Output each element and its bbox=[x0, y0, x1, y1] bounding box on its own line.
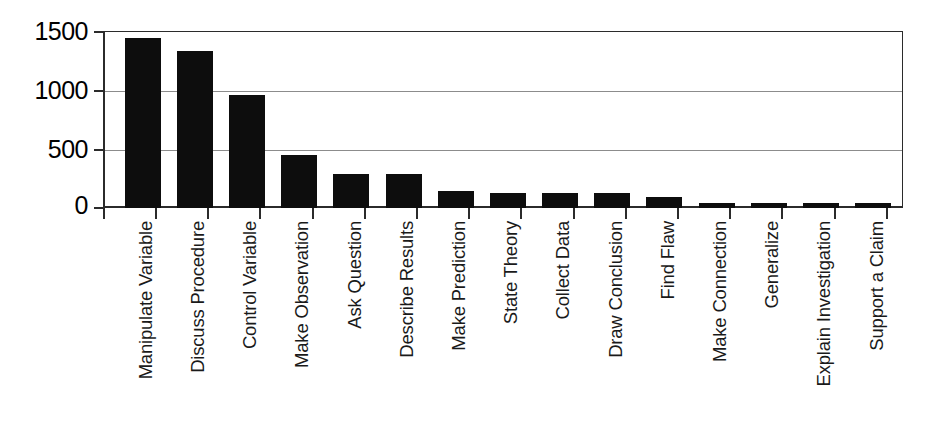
x-label-draw-conclusion: Draw Conclusion bbox=[607, 221, 626, 358]
x-tick-mark-1 bbox=[155, 208, 157, 219]
x-tick-marks bbox=[103, 208, 903, 219]
x-tick-mark-14 bbox=[834, 208, 836, 219]
x-label-control-variable: Control Variable bbox=[241, 221, 260, 349]
y-tick-label-500: 500 bbox=[48, 137, 88, 162]
x-tick-mark-10 bbox=[625, 208, 627, 219]
x-tick-mark-12 bbox=[729, 208, 731, 219]
bar-chart: 1500 1000 500 0 bbox=[0, 0, 947, 435]
x-tick-mark-6 bbox=[416, 208, 418, 219]
x-tick-mark-15 bbox=[886, 208, 888, 219]
x-label-discuss-procedure: Discuss Procedure bbox=[189, 221, 208, 373]
x-tick-mark-3 bbox=[259, 208, 261, 219]
x-label-find-flaw: Find Flaw bbox=[659, 221, 678, 299]
x-label-state-theory: State Theory bbox=[502, 221, 521, 324]
x-tick-mark-13 bbox=[781, 208, 783, 219]
x-label-collect-data: Collect Data bbox=[554, 221, 573, 319]
x-label-describe-results: Describe Results bbox=[398, 221, 417, 358]
y-tick-label-1000: 1000 bbox=[34, 78, 88, 103]
x-tick-mark-4 bbox=[312, 208, 314, 219]
gridline-500 bbox=[105, 150, 902, 151]
y-tick-label-0: 0 bbox=[75, 193, 88, 218]
x-label-make-connection: Make Connection bbox=[711, 221, 730, 362]
plot-area bbox=[103, 31, 903, 208]
x-label-support-a-claim: Support a Claim bbox=[868, 221, 887, 351]
x-label-explain-investigation: Explain Investigation bbox=[815, 221, 834, 387]
x-tick-mark-5 bbox=[364, 208, 366, 219]
y-tick-mark-0 bbox=[94, 207, 103, 209]
gridline-1000 bbox=[105, 91, 902, 92]
y-tick-mark-500 bbox=[94, 149, 103, 151]
x-label-generalize: Generalize bbox=[763, 221, 782, 308]
y-axis-labels: 1500 1000 500 0 bbox=[0, 0, 88, 230]
x-label-make-prediction: Make Prediction bbox=[450, 221, 469, 351]
x-tick-mark-9 bbox=[573, 208, 575, 219]
x-tick-mark-0 bbox=[103, 208, 105, 219]
x-label-make-observation: Make Observation bbox=[293, 221, 312, 368]
y-tick-label-1500: 1500 bbox=[34, 19, 88, 44]
x-axis-labels: Manipulate Variable Discuss Procedure Co… bbox=[103, 221, 903, 431]
x-tick-mark-2 bbox=[207, 208, 209, 219]
x-tick-mark-7 bbox=[468, 208, 470, 219]
x-tick-mark-11 bbox=[677, 208, 679, 219]
x-tick-mark-8 bbox=[520, 208, 522, 219]
x-label-ask-question: Ask Question bbox=[346, 221, 365, 329]
y-tick-mark-1500 bbox=[94, 31, 103, 33]
x-label-manipulate-variable: Manipulate Variable bbox=[137, 221, 156, 379]
y-tick-mark-1000 bbox=[94, 90, 103, 92]
